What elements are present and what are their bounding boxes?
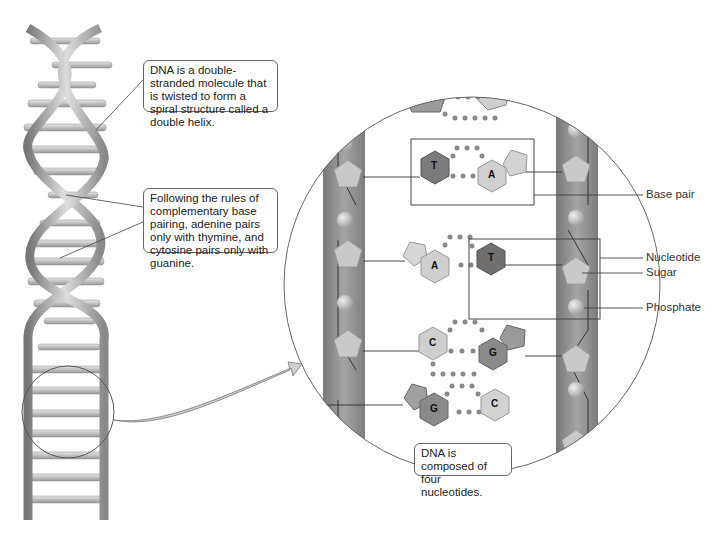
label-base-pair: Base pair bbox=[646, 188, 695, 200]
callout-pairing-rules: Following the rules of complementary bas… bbox=[143, 188, 278, 253]
arrow-icon bbox=[114, 362, 302, 422]
base-a-row1: A bbox=[488, 169, 495, 180]
callout-composition: DNA is composed of four nucleotides. bbox=[414, 443, 512, 476]
base-c-row3: C bbox=[429, 337, 436, 348]
label-phosphate: Phosphate bbox=[646, 301, 701, 313]
base-t-row1: T bbox=[431, 160, 437, 171]
label-sugar: Sugar bbox=[646, 266, 677, 278]
magnified-view bbox=[320, 85, 598, 490]
base-a-row2: A bbox=[431, 260, 438, 271]
base-c-row4: C bbox=[491, 398, 498, 409]
callout-double-helix: DNA is a double-stranded molecule that i… bbox=[143, 60, 278, 112]
base-t-row2: T bbox=[488, 252, 494, 263]
base-g-row3: G bbox=[489, 347, 497, 358]
label-nucleotide: Nucleotide bbox=[646, 251, 700, 263]
dna-diagram bbox=[0, 0, 713, 539]
base-g-row4: G bbox=[430, 403, 438, 414]
